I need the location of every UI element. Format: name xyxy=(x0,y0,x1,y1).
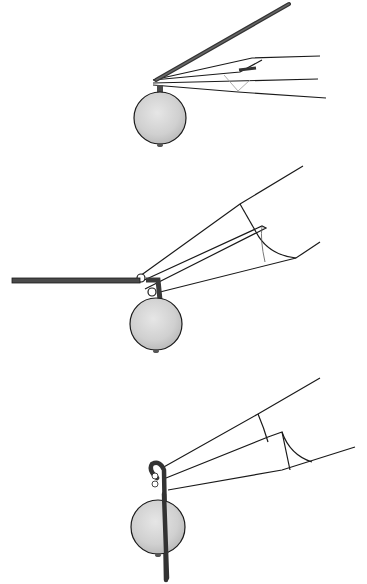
bead-2 xyxy=(130,298,182,353)
step-3-figure xyxy=(131,378,355,580)
pliers-3 xyxy=(162,378,355,490)
step-2-figure xyxy=(12,166,320,353)
pliers-1 xyxy=(153,56,326,98)
pliers-2 xyxy=(137,166,320,296)
wire-2 xyxy=(12,278,160,300)
illustration-canvas xyxy=(0,0,367,584)
step-1-figure xyxy=(134,4,326,147)
bead-3 xyxy=(131,494,185,578)
bead-1 xyxy=(134,92,186,147)
